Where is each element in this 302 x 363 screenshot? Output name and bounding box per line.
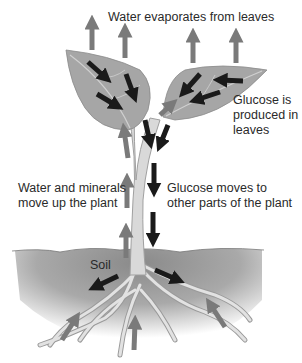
evaporation-arrows — [92, 22, 236, 63]
water-up-line-1: Water and minerals — [18, 181, 126, 196]
glucose-moves-line-2: other parts of the plant — [167, 196, 292, 211]
left-leaf — [66, 50, 150, 130]
water-up-label: Water and minerals move up the plant — [18, 181, 126, 211]
glucose-produced-line-1: Glucose is — [233, 93, 298, 108]
glucose-moves-line-1: Glucose moves to — [167, 181, 292, 196]
glucose-moves-label: Glucose moves to other parts of the plan… — [167, 181, 292, 211]
glucose-produced-label: Glucose is produced in leaves — [233, 93, 298, 138]
glucose-produced-line-2: produced in — [233, 108, 298, 123]
evaporation-label: Water evaporates from leaves — [108, 10, 274, 25]
glucose-produced-line-3: leaves — [233, 123, 298, 138]
water-up-line-2: move up the plant — [18, 196, 126, 211]
soil-label: Soil — [90, 258, 111, 273]
